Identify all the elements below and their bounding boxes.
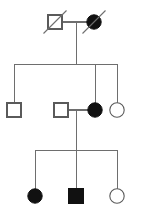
- female-circle-symbol: [110, 189, 124, 203]
- female-circle-symbol: [110, 103, 124, 117]
- male-square-symbol: [69, 189, 84, 204]
- female-circle-symbol: [28, 189, 42, 203]
- pedigree-canvas: [0, 0, 150, 214]
- person-III-1-affected-female[interactable]: [28, 189, 42, 203]
- person-II-1-unaffected-male[interactable]: [7, 103, 21, 117]
- pedigree-chart: [0, 0, 150, 214]
- generation-3-group: [28, 150, 124, 204]
- generation-1-group: [44, 11, 106, 65]
- male-square-symbol: [54, 103, 68, 117]
- person-III-3-unaffected-female[interactable]: [110, 189, 124, 203]
- person-II-4-unaffected-female[interactable]: [110, 103, 124, 117]
- person-III-2-affected-male[interactable]: [69, 189, 84, 204]
- male-square-symbol: [7, 103, 21, 117]
- generation-2-group: [7, 64, 124, 150]
- person-II-2-unaffected-male[interactable]: [54, 103, 68, 117]
- person-II-3-affected-female[interactable]: [88, 103, 102, 117]
- female-circle-symbol: [88, 103, 102, 117]
